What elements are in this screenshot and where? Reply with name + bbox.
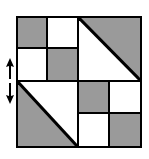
quadrant-top-left-checkerboard: [18, 18, 79, 82]
half-square-triangle-bottom-left: [18, 82, 77, 146]
quilt-block-figure: [0, 0, 149, 159]
patch-br-top-right: [110, 82, 141, 114]
patch-tl-top-right: [48, 18, 78, 49]
patch-br-bottom-left: [79, 114, 110, 146]
double-arrow-vertical-icon: [3, 58, 17, 104]
patch-br-bottom-right: [110, 114, 141, 146]
half-square-triangle-top-right: [79, 18, 140, 80]
patch-br-top-left: [79, 82, 110, 114]
patch-tl-bottom-right: [48, 49, 78, 80]
four-patch-quilt-block: [16, 16, 142, 148]
arrow-down-glyph: [6, 83, 14, 104]
patch-tl-top-left: [18, 18, 48, 49]
patch-tl-bottom-left: [18, 49, 48, 80]
quadrant-bottom-right-checkerboard: [79, 82, 140, 146]
quadrant-top-right-half-square-triangle: [79, 18, 140, 82]
arrow-up-glyph: [6, 58, 14, 79]
quadrant-bottom-left-half-square-triangle: [18, 82, 79, 146]
